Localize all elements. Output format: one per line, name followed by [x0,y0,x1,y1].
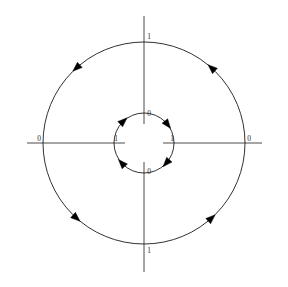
tick-label-inner-top: 0 [147,109,151,118]
tick-label-outer-right: 0 [247,134,251,143]
tick-label-inner-left: 1 [114,134,118,143]
tick-label-outer-top: 1 [147,32,151,41]
figure-root: 10010110 [0,0,288,287]
axes-group [27,16,262,272]
tick-label-outer-bottom: 1 [147,246,151,255]
outer-arrow-upper-left-icon [73,62,82,71]
outer-arrow-lower-right-icon [206,215,215,224]
tick-label-inner-bottom: 0 [147,167,151,176]
inner-arrow-lower-right-icon [163,157,172,166]
tick-label-outer-left: 0 [37,134,41,143]
tick-label-inner-right: 1 [170,134,174,143]
phase-portrait-diagram: 10010110 [0,0,288,287]
